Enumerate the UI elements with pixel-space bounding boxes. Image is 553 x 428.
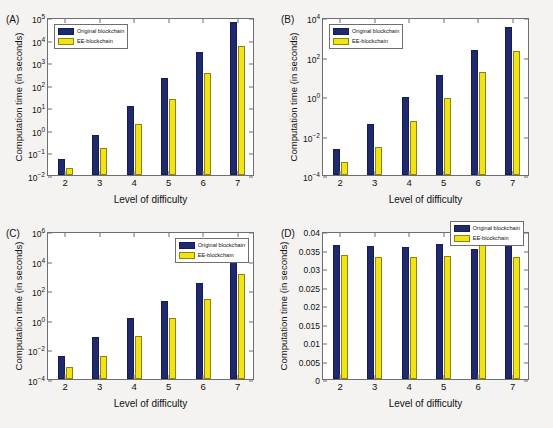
legend-label: EE-blockchain [198,253,234,259]
legend-item: Original blockchain [58,27,124,36]
y-tick-mark [524,270,528,271]
bar-original-blockchain [505,245,512,379]
bar-ee-blockchain [479,242,486,379]
chart-legend: Original blockchainEE-blockchain [175,238,249,263]
legend-item: EE-blockchain [454,234,520,243]
y-tick-mark [323,270,327,271]
x-tick-label: 7 [510,382,515,392]
bar-original-blockchain [402,247,409,379]
bar-ee-blockchain [341,255,348,379]
y-tick-label: 0.025 [299,284,320,293]
legend-swatch-original [58,28,74,35]
x-tick-mark [340,233,341,237]
y-tick-mark [323,344,327,345]
y-tick-label: 0.03 [303,266,320,275]
y-tick-mark [524,307,528,308]
y-axis-label: Computation time (in seconds) [278,232,289,380]
y-tick-mark [323,307,327,308]
x-tick-mark [478,375,479,379]
x-tick-label: 5 [441,382,446,392]
x-tick-label: 3 [372,382,377,392]
y-tick-mark [323,288,327,289]
y-tick-mark [524,344,528,345]
y-tick-mark [524,325,528,326]
legend-swatch-ee [179,252,195,259]
legend-label: Original blockchain [352,29,399,35]
legend-swatch-original [333,28,349,35]
bar-ee-blockchain [375,257,382,379]
x-tick-mark [409,375,410,379]
legend-label: EE-blockchain [473,236,509,242]
y-tick-mark [323,325,327,326]
bar-original-blockchain [367,246,374,379]
y-tick-mark [524,233,528,234]
y-tick-label: 0.04 [303,229,320,238]
legend-swatch-ee [454,235,470,242]
y-tick-mark [524,381,528,382]
chart-legend: Original blockchainEE-blockchain [329,24,403,49]
y-tick-label: 0.01 [303,340,320,349]
chart-legend: Original blockchainEE-blockchain [450,221,524,246]
bar-original-blockchain [333,245,340,379]
y-tick-mark [524,251,528,252]
x-tick-label: 4 [407,382,412,392]
plot-area: 00.0050.010.0150.020.0250.030.0350.04234… [322,232,529,380]
legend-item: EE-blockchain [333,37,399,46]
x-axis-label: Level of difficulty [322,398,529,409]
bar-ee-blockchain [513,257,520,379]
y-tick-mark [524,362,528,363]
y-tick-mark [323,362,327,363]
bar-original-blockchain [471,249,478,379]
legend-swatch-ee [333,38,349,45]
y-tick-label: 0 [315,377,320,386]
x-tick-mark [374,233,375,237]
x-tick-label: 6 [476,382,481,392]
y-tick-label: 0.035 [299,247,320,256]
x-tick-label: 2 [338,382,343,392]
legend-label: Original blockchain [77,29,124,35]
legend-label: EE-blockchain [352,39,388,45]
bar-ee-blockchain [410,257,417,379]
x-tick-mark [512,375,513,379]
y-tick-mark [524,288,528,289]
legend-item: Original blockchain [454,224,520,233]
chart-panel-d: (D)Computation time (in seconds)00.0050.… [0,0,553,428]
legend-label: Original blockchain [473,226,520,232]
bar-original-blockchain [436,244,443,379]
legend-item: Original blockchain [179,241,245,250]
legend-item: Original blockchain [333,27,399,36]
x-tick-mark [409,233,410,237]
legend-label: Original blockchain [198,243,245,249]
y-tick-mark [323,233,327,234]
legend-item: EE-blockchain [58,37,124,46]
bar-ee-blockchain [444,256,451,379]
x-tick-mark [443,233,444,237]
y-tick-label: 0.02 [303,303,320,312]
chart-legend: Original blockchainEE-blockchain [54,24,128,49]
legend-swatch-original [454,225,470,232]
legend-item: EE-blockchain [179,251,245,260]
x-tick-mark [443,375,444,379]
y-tick-mark [323,251,327,252]
x-tick-mark [340,375,341,379]
y-tick-label: 0.005 [299,358,320,367]
y-tick-label: 0.015 [299,321,320,330]
legend-swatch-ee [58,38,74,45]
x-tick-mark [374,375,375,379]
legend-swatch-original [179,242,195,249]
legend-label: EE-blockchain [77,39,113,45]
figure-root: (A)Computation time (in seconds)10−210−1… [0,0,553,428]
y-tick-mark [323,381,327,382]
